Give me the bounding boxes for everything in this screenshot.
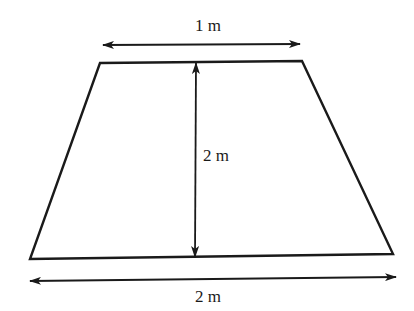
top-width-label: 1 m	[195, 16, 221, 35]
bottom-width-arrow	[30, 277, 396, 281]
height-arrow	[195, 63, 196, 257]
trapezoid-diagram: 1 m 2 m 2 m	[0, 0, 414, 311]
bottom-width-label: 2 m	[195, 287, 221, 306]
top-width-arrow	[103, 44, 300, 45]
height-label: 2 m	[203, 146, 229, 165]
